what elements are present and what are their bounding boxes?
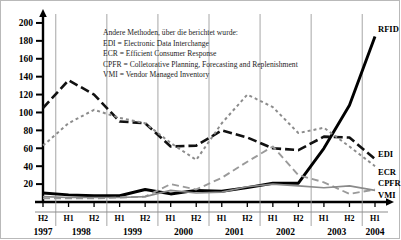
y-tick-label-80: 80 <box>24 126 34 136</box>
x-year-label-2003: 2003 <box>327 227 346 237</box>
x-half-label-2002-H1: H1 <box>268 214 278 223</box>
y-tick-label-60: 60 <box>24 144 34 154</box>
legend-entry-3: VMI = Vendor Managed Inventory <box>103 70 209 79</box>
legend-text-block: Andere Methoden, über die berichtet wurd… <box>103 28 299 79</box>
x-half-label-2000-H1: H1 <box>166 214 176 223</box>
y-tick-label-180: 180 <box>19 36 34 46</box>
series-label-vmi: VMI <box>378 190 396 200</box>
axes-group <box>35 9 394 206</box>
y-tick-label-100: 100 <box>19 108 34 118</box>
series-label-rfid: RFID <box>378 24 399 34</box>
series-end-labels-group: RFIDEDIECRCPFRVMI <box>378 24 401 200</box>
x-half-label-2004-H1: H1 <box>370 214 380 223</box>
x-year-label-2004: 2004 <box>366 227 385 237</box>
y-tick-label-160: 160 <box>19 54 34 64</box>
x-half-label-2000-H2: H2 <box>191 214 201 223</box>
y-tick-label-40: 40 <box>24 162 34 172</box>
y-tick-label-120: 120 <box>19 90 34 100</box>
x-half-label-2001-H1: H1 <box>217 214 227 223</box>
y-tick-label-20: 20 <box>24 179 34 189</box>
legend-entry-2: CPFR = Colletorative Planning, Forecasti… <box>103 60 299 69</box>
x-axis-year-labels: 19971998199920002001200220032004 <box>34 227 385 237</box>
series-label-edi: EDI <box>378 149 394 159</box>
x-year-label-1999: 1999 <box>123 227 142 237</box>
x-year-label-2000: 2000 <box>174 227 193 237</box>
line-chart-plot: 20406080100120140160180200 H2H1H2H1H2H1H… <box>0 0 401 240</box>
x-half-label-1999-H1: H1 <box>114 214 124 223</box>
y-axis-arrowhead <box>39 9 47 17</box>
series-label-ecr: ECR <box>378 167 397 177</box>
x-half-label-2001-H2: H2 <box>242 214 252 223</box>
y-tick-label-140: 140 <box>19 72 34 82</box>
legend-entry-0: EDI = Electronic Data Interchange <box>103 39 210 48</box>
legend-title: Andere Methoden, über die berichtet wurd… <box>103 28 238 37</box>
x-half-label-1998-H2: H2 <box>89 214 99 223</box>
x-year-label-2002: 2002 <box>276 227 295 237</box>
x-half-label-2003-H2: H2 <box>344 214 354 223</box>
x-half-label-1997-H2: H2 <box>38 214 48 223</box>
x-half-label-1999-H2: H2 <box>140 214 150 223</box>
year-separator-gridlines <box>56 14 362 226</box>
series-label-cpfr: CPFR <box>378 178 401 188</box>
chart-container: 20406080100120140160180200 H2H1H2H1H2H1H… <box>0 0 401 240</box>
x-half-label-1998-H1: H1 <box>63 214 73 223</box>
x-half-label-2003-H1: H1 <box>319 214 329 223</box>
x-year-label-2001: 2001 <box>225 227 244 237</box>
x-half-label-2002-H2: H2 <box>293 214 303 223</box>
x-year-label-1997: 1997 <box>34 227 53 237</box>
x-year-label-1998: 1998 <box>72 227 91 237</box>
legend-entry-1: ECR = Efficient Consumer Response <box>103 49 217 58</box>
y-tick-label-200: 200 <box>19 18 34 28</box>
y-axis-tick-labels: 20406080100120140160180200 <box>19 18 34 189</box>
